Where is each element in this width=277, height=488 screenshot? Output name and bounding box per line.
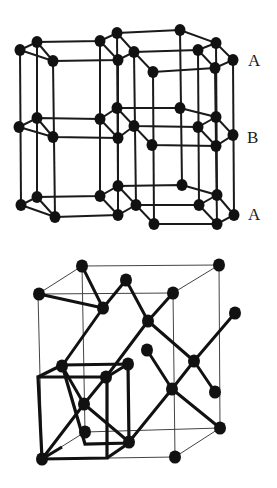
atom-icon xyxy=(129,46,140,58)
layer-label-a-bottom: A xyxy=(248,206,260,223)
atom-icon xyxy=(120,273,132,286)
atom-icon xyxy=(188,354,200,367)
layer-label-b: B xyxy=(247,129,258,146)
atom-icon xyxy=(193,44,204,56)
bond-line xyxy=(194,313,235,361)
bond-line xyxy=(148,321,194,361)
atom-icon xyxy=(15,44,26,56)
atom-icon xyxy=(211,111,222,123)
atom-icon xyxy=(129,120,140,132)
atom-icon xyxy=(36,452,48,465)
atom-icon xyxy=(169,450,181,463)
atom-icon xyxy=(95,35,106,47)
crystal-structures-diagram xyxy=(0,0,277,488)
atom-icon xyxy=(141,343,153,356)
atom-icon xyxy=(213,258,225,271)
atom-icon xyxy=(123,435,135,448)
atom-icon xyxy=(229,209,240,221)
bond-line xyxy=(39,294,103,308)
atom-icon xyxy=(229,306,241,319)
atom-icon xyxy=(147,139,158,151)
atom-icon xyxy=(95,113,106,125)
atom-icon xyxy=(16,199,27,211)
atom-icon xyxy=(209,385,221,398)
atom-icon xyxy=(210,62,221,74)
bond-line xyxy=(82,266,103,308)
atom-icon xyxy=(177,179,188,191)
atom-icon xyxy=(113,132,124,144)
atom-icon xyxy=(214,421,226,434)
atom-icon xyxy=(48,131,59,143)
atom-icon xyxy=(100,370,112,383)
atom-icon xyxy=(14,121,25,133)
atom-icon xyxy=(149,218,160,230)
atom-icon xyxy=(79,425,91,438)
bond-line xyxy=(147,350,172,389)
atom-icon xyxy=(122,357,134,370)
atom-icon xyxy=(32,112,43,124)
atom-icon xyxy=(112,27,123,39)
atom-icon xyxy=(211,140,222,152)
atom-icon xyxy=(76,259,88,272)
atom-icon xyxy=(212,189,223,201)
atom-icon xyxy=(212,218,223,230)
atom-icon xyxy=(95,190,106,202)
diamond-bonds xyxy=(39,266,235,459)
atom-icon xyxy=(194,199,205,211)
atom-icon xyxy=(78,397,90,410)
atom-icon xyxy=(113,54,124,66)
atom-icon xyxy=(193,121,204,133)
bond-line xyxy=(129,389,172,442)
atom-icon xyxy=(211,37,222,49)
atom-icon xyxy=(32,36,43,48)
atom-icon xyxy=(131,199,142,211)
atom-icon xyxy=(228,129,239,141)
atom-icon xyxy=(175,102,186,114)
bond-line xyxy=(126,280,148,321)
atom-icon xyxy=(56,359,68,372)
atom-icon xyxy=(228,54,239,66)
atom-icon xyxy=(142,314,154,327)
atom-icon xyxy=(97,301,109,314)
atom-icon xyxy=(166,382,178,395)
atom-icon xyxy=(167,286,179,299)
atom-icon xyxy=(33,287,45,300)
atom-icon xyxy=(113,209,124,221)
layer-label-a-top: A xyxy=(248,52,260,69)
atom-icon xyxy=(148,66,159,78)
atom-icon xyxy=(50,211,61,223)
atom-icon xyxy=(175,24,186,36)
atom-icon xyxy=(32,191,43,203)
atom-icon xyxy=(112,102,123,114)
bond-line xyxy=(42,404,84,459)
atom-icon xyxy=(48,55,59,67)
atom-icon xyxy=(113,180,124,192)
